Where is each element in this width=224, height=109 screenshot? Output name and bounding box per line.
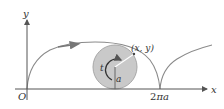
cycloid-curve-next bbox=[160, 45, 212, 89]
x-axis-label: x bbox=[211, 84, 217, 95]
period-label: 2πa bbox=[150, 91, 169, 102]
cycloid-diagram: y x O (x, y) t a 2πa bbox=[0, 0, 224, 109]
origin-label: O bbox=[18, 91, 26, 102]
point-marker bbox=[133, 53, 135, 55]
angle-label: t bbox=[100, 63, 104, 73]
diagram-svg: y x O (x, y) t a 2πa bbox=[0, 0, 224, 109]
radius-label: a bbox=[116, 74, 121, 84]
point-label: (x, y) bbox=[131, 43, 154, 53]
y-axis-label: y bbox=[22, 8, 29, 19]
